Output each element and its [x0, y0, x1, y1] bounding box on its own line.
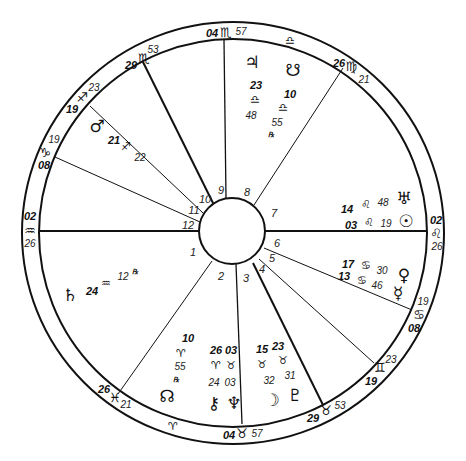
cusp-ic-minutes: 57	[251, 429, 262, 439]
cusp-dsc-minutes: 26	[431, 242, 442, 252]
moon-minutes: 32	[263, 376, 274, 386]
sun-minutes: 19	[380, 219, 391, 229]
saturn-degree: 24	[86, 286, 98, 297]
cusp-26vir-degree: 26	[333, 58, 345, 69]
house-number-11: 11	[188, 205, 199, 216]
neptune-degree: 03	[225, 345, 237, 356]
aries-icon: ♈	[176, 348, 186, 359]
south-node-degree: 10	[182, 333, 194, 344]
venus-minutes: 30	[376, 266, 387, 276]
node-minutes: 55	[271, 118, 282, 128]
virgo-icon: ♍	[345, 60, 357, 73]
cusp-19sag-degree: 19	[66, 104, 78, 115]
leo-icon: ♌	[361, 199, 371, 210]
jupiter-icon[interactable]: ♃	[244, 54, 259, 71]
cusp-29sco-degree: 29	[125, 60, 137, 71]
mercury-minutes: 46	[371, 281, 382, 291]
saturn-icon[interactable]: ♄	[62, 287, 77, 304]
pluto-icon[interactable]: ♇	[287, 387, 302, 404]
cusp-19gem-degree: 19	[365, 376, 377, 387]
taurus-icon: ♉	[320, 404, 332, 417]
sun-icon[interactable]: ☉	[398, 213, 413, 230]
mars-degree: 21	[108, 135, 120, 146]
cusp-mc-minutes: 57	[235, 27, 246, 37]
cusp-dsc-degree: 02	[430, 215, 442, 226]
retrograde-icon: ℞	[268, 131, 274, 138]
capricorn-icon: ♑	[39, 146, 51, 159]
libra-icon: ♎	[250, 94, 260, 105]
cusp-line-29sco	[143, 62, 213, 203]
cusp-29sco-minutes: 53	[147, 45, 158, 55]
mars-icon[interactable]: ♂	[89, 118, 104, 135]
cusp-asc-degree: 02	[24, 211, 36, 222]
taurus-icon: ♉	[226, 360, 236, 371]
taurus-icon: ♉	[236, 427, 248, 440]
venus-icon[interactable]: ♀	[398, 267, 410, 284]
cusp-19gem-minutes: 23	[385, 355, 396, 365]
chiron-icon[interactable]: ⚷	[208, 395, 220, 412]
cusp-08can-minutes: 19	[417, 297, 428, 307]
house-number-10: 10	[199, 194, 211, 205]
house-number-12: 12	[182, 220, 194, 231]
pisces-icon: ♓	[109, 391, 121, 404]
moon-degree: 15	[256, 344, 268, 355]
gemini-icon: ♊	[374, 361, 386, 374]
south-node-minutes: 55	[174, 362, 185, 372]
cusp-08cap-minutes: 19	[48, 135, 59, 145]
mars-minutes: 22	[134, 153, 145, 163]
south-node-icon[interactable]: ☊	[159, 388, 174, 405]
mercury-icon[interactable]: ☿	[393, 285, 403, 302]
cusp-line-19sag	[90, 106, 203, 213]
uranus-degree: 14	[341, 204, 353, 215]
house-number-8: 8	[244, 187, 250, 198]
cusp-ic-degree: 04	[223, 430, 235, 441]
venus-degree: 17	[342, 259, 354, 270]
cancer-icon: ♋	[361, 260, 371, 271]
cancer-icon: ♋	[413, 308, 425, 321]
chiron-degree: 26	[210, 345, 222, 356]
house-number-6: 6	[274, 238, 280, 249]
aquarius-icon: ♒	[24, 224, 36, 237]
cusp-26pis-minutes: 21	[120, 400, 131, 410]
jupiter-minutes: 48	[245, 111, 256, 121]
taurus-icon: ♉	[257, 359, 267, 370]
aries-intercepted-icon: ♈	[168, 421, 178, 432]
leo-icon: ♌	[364, 217, 374, 228]
cusp-08cap-degree: 08	[38, 160, 50, 171]
house-number-7: 7	[271, 208, 277, 219]
cusp-29tau-minutes: 53	[334, 401, 345, 411]
house-number-3: 3	[243, 273, 249, 284]
cusp-line-mc	[224, 40, 226, 198]
sagittarius-icon: ♐	[121, 141, 131, 152]
cusp-29tau-degree: 29	[307, 413, 319, 424]
aries-icon: ♈	[211, 360, 221, 371]
sagittarius-icon: ♐	[76, 91, 88, 104]
node-degree: 10	[284, 89, 296, 100]
sun-degree: 03	[345, 220, 357, 231]
cusp-asc-minutes: 26	[24, 239, 35, 249]
hub-circle	[199, 198, 265, 264]
retrograde-icon: ℞	[132, 268, 138, 275]
node-icon[interactable]: ☋	[285, 62, 300, 79]
aquarius-icon: ♒	[101, 278, 111, 289]
cusp-26vir-minutes: 21	[358, 75, 369, 85]
cusp-19sag-minutes: 23	[88, 83, 99, 93]
house-number-1: 1	[190, 247, 196, 258]
uranus-minutes: 48	[377, 198, 388, 208]
retrograde-icon: ℞	[173, 376, 179, 383]
neptune-minutes: 03	[224, 378, 235, 388]
chiron-minutes: 24	[208, 378, 219, 388]
house-number-9: 9	[218, 185, 224, 196]
house-number-4: 4	[259, 264, 265, 275]
cancer-icon: ♋	[357, 275, 367, 286]
moon-icon[interactable]: ☽	[264, 392, 279, 409]
leo-icon: ♌	[430, 227, 442, 240]
jupiter-degree: 23	[250, 80, 262, 91]
taurus-icon: ♉	[278, 355, 288, 366]
neptune-icon[interactable]: ♆	[226, 395, 241, 412]
uranus-icon[interactable]: ♅	[396, 190, 411, 207]
house-number-5: 5	[269, 253, 275, 264]
saturn-minutes: 12	[117, 272, 128, 282]
house-number-2: 2	[218, 271, 224, 282]
libra-icon: ♎	[278, 102, 288, 113]
